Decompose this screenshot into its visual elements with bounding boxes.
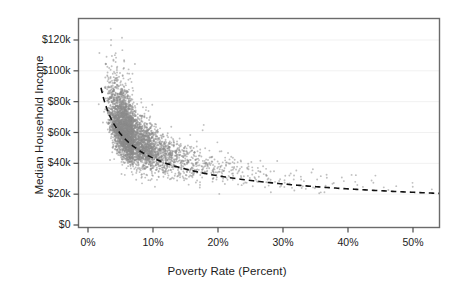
data-point <box>284 182 286 184</box>
data-point <box>195 165 197 167</box>
data-point <box>199 152 201 154</box>
data-point <box>284 179 286 181</box>
data-point <box>133 162 135 164</box>
data-point <box>140 123 142 125</box>
data-point <box>153 125 155 127</box>
x-axis-tick-label: 0% <box>63 236 113 248</box>
data-point <box>149 127 151 129</box>
data-point <box>295 170 297 172</box>
data-point <box>123 67 125 69</box>
data-point <box>107 72 109 74</box>
data-point <box>206 167 208 169</box>
data-point <box>242 171 244 173</box>
x-axis-tick-label: 30% <box>258 236 308 248</box>
data-point <box>270 191 272 193</box>
data-point <box>151 132 153 134</box>
data-point <box>154 132 156 134</box>
data-point <box>161 155 163 157</box>
data-point <box>131 99 133 101</box>
data-point <box>158 137 160 139</box>
data-point <box>114 82 116 84</box>
data-point <box>121 164 123 166</box>
data-point <box>162 134 164 136</box>
data-point <box>259 160 261 162</box>
data-point <box>104 77 106 79</box>
data-point <box>117 79 119 81</box>
data-point <box>240 175 242 177</box>
data-point <box>326 177 328 179</box>
data-point <box>210 172 212 174</box>
data-point <box>232 169 234 171</box>
data-point <box>190 146 192 148</box>
data-point <box>171 171 173 173</box>
data-point <box>136 119 138 121</box>
data-point <box>208 150 210 152</box>
data-point <box>232 175 234 177</box>
data-point <box>154 172 156 174</box>
data-point <box>205 158 207 160</box>
data-point <box>125 83 127 85</box>
data-point <box>127 91 129 93</box>
data-point <box>174 173 176 175</box>
data-point <box>172 166 174 168</box>
data-point <box>356 184 358 186</box>
data-point <box>142 106 144 108</box>
y-axis-title-wrapper: Median Household Income <box>29 25 47 225</box>
data-point <box>168 175 170 177</box>
data-point <box>211 161 213 163</box>
data-point <box>185 174 187 176</box>
data-point <box>205 165 207 167</box>
data-point <box>170 169 172 171</box>
data-point <box>144 150 146 152</box>
data-point <box>255 179 257 181</box>
data-point <box>241 184 243 186</box>
data-point <box>178 160 180 162</box>
data-point <box>233 162 235 164</box>
data-point <box>244 182 246 184</box>
data-point <box>116 71 118 73</box>
data-point <box>212 164 214 166</box>
data-point <box>199 164 201 166</box>
data-point <box>213 171 215 173</box>
data-point <box>264 186 266 188</box>
data-point <box>267 179 269 181</box>
data-point <box>120 80 122 82</box>
data-point <box>241 166 243 168</box>
data-point <box>133 102 135 104</box>
data-point <box>265 181 267 183</box>
data-point <box>208 167 210 169</box>
data-point <box>110 137 112 139</box>
data-point <box>175 150 177 152</box>
data-point <box>258 176 260 178</box>
data-point <box>395 185 397 187</box>
data-point <box>237 161 239 163</box>
data-point <box>159 146 161 148</box>
data-point <box>141 173 143 175</box>
data-point <box>114 72 116 74</box>
data-point <box>126 167 128 169</box>
data-point <box>193 165 195 167</box>
data-point <box>106 56 108 58</box>
data-point <box>137 113 139 115</box>
data-point <box>130 167 132 169</box>
data-point <box>139 119 141 121</box>
data-point <box>204 147 206 149</box>
data-point <box>133 168 135 170</box>
data-point <box>141 161 143 163</box>
data-point <box>207 164 209 166</box>
data-point <box>115 57 117 59</box>
data-point <box>152 175 154 177</box>
data-point <box>134 105 136 107</box>
data-point <box>250 161 252 163</box>
data-point <box>116 146 118 148</box>
data-point <box>140 130 142 132</box>
data-point <box>134 113 136 115</box>
data-point <box>110 69 112 71</box>
data-point <box>182 160 184 162</box>
data-point <box>172 138 174 140</box>
data-point <box>151 136 153 138</box>
data-point <box>180 145 182 147</box>
data-point <box>155 169 157 171</box>
data-point <box>152 163 154 165</box>
data-point <box>218 193 220 195</box>
